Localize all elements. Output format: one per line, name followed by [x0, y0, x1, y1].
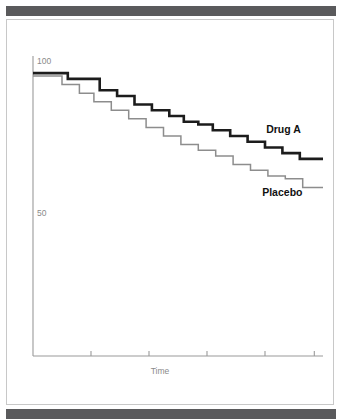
y-tick-label-50: 50	[37, 208, 47, 218]
y-tick-label-100: 100	[37, 56, 51, 66]
chart-page: 100 50 Drug A Placebo Time	[0, 0, 342, 419]
survival-chart: 100 50 Drug A Placebo Time	[7, 20, 335, 406]
x-axis-title: Time	[151, 366, 170, 376]
series-label-placebo: Placebo	[262, 186, 302, 198]
chart-svg: 100 50 Drug A Placebo Time	[7, 20, 335, 406]
top-divider-bar	[6, 6, 336, 16]
figure-card: 100 50 Drug A Placebo Time	[6, 19, 334, 405]
series-label-drug-a: Drug A	[266, 123, 301, 135]
x-axis-ticks	[91, 351, 314, 356]
bottom-divider-bar	[6, 409, 336, 419]
drug-a-survival-curve	[33, 73, 323, 159]
